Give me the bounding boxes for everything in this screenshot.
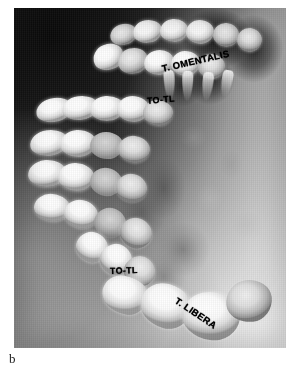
annotation-label-to-tl-lower: TO-TL (110, 265, 138, 276)
vignette-layer (14, 8, 286, 348)
figure-panel: T. OMENTALIS TO-TL TO-TL T. LIBERA b (0, 0, 296, 371)
figure-panel-letter: b (9, 352, 16, 365)
radiograph-image: T. OMENTALIS TO-TL TO-TL T. LIBERA (14, 8, 286, 348)
